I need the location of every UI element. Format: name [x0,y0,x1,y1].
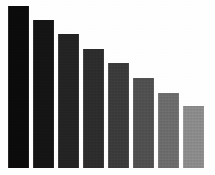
bar-8 [183,106,204,168]
bar-6 [133,78,154,168]
bar-1 [8,6,29,168]
bar-5 [108,63,129,168]
bar-3 [58,34,79,168]
bar-7 [158,93,179,168]
plot-area [0,0,215,175]
bar-chart-figure [0,0,215,175]
bar-4 [83,49,104,168]
bar-2 [33,20,54,168]
